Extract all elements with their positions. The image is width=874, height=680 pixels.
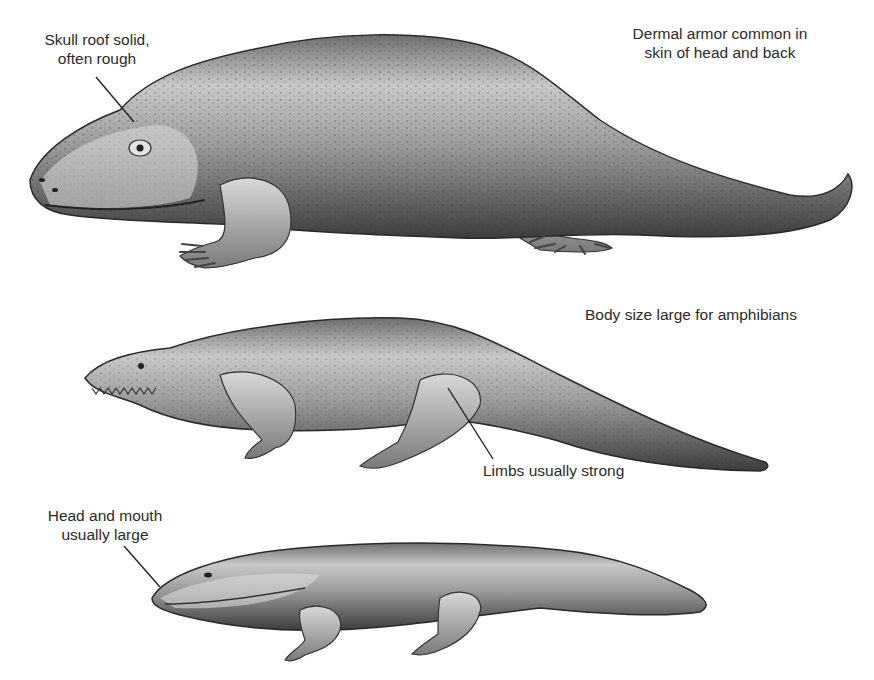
label-skull-roof: Skull roof solid, often rough xyxy=(22,30,172,68)
label-line: Limbs usually strong xyxy=(483,461,624,480)
flat-headed-amphibian-illustration xyxy=(152,543,706,661)
armored-amphibian-illustration xyxy=(30,35,852,268)
label-line: Head and mouth xyxy=(35,506,175,525)
eye-icon xyxy=(129,140,151,156)
label-dermal-armor: Dermal armor common in skin of head and … xyxy=(600,24,840,62)
illustration-canvas xyxy=(0,0,874,680)
label-body-size: Body size large for amphibians xyxy=(585,305,797,324)
label-line: Skull roof solid, xyxy=(22,30,172,49)
label-line: Dermal armor common in xyxy=(600,24,840,43)
label-line: skin of head and back xyxy=(600,43,840,62)
label-line: Body size large for amphibians xyxy=(585,305,797,324)
label-head-mouth: Head and mouth usually large xyxy=(35,506,175,544)
label-limbs: Limbs usually strong xyxy=(483,461,624,480)
label-line: usually large xyxy=(35,525,175,544)
label-line: often rough xyxy=(22,49,172,68)
head-leader-line xyxy=(124,546,160,587)
long-tailed-amphibian-illustration xyxy=(85,318,768,471)
